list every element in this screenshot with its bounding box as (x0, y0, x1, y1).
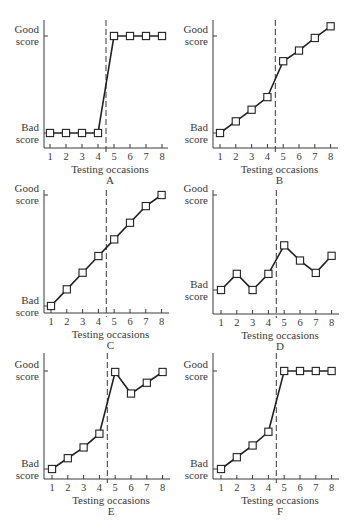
x-tick-label: 1 (218, 317, 223, 328)
bad-label: Bad (21, 457, 39, 469)
data-point-marker (249, 286, 256, 293)
x-tick-label: 3 (250, 317, 255, 328)
good-score-label: score (185, 194, 208, 206)
bad-label: Bad (190, 121, 208, 133)
data-point-marker (233, 454, 240, 461)
bad-score-label: score (16, 306, 39, 318)
x-tick-label: 5 (281, 151, 286, 162)
x-tick-label: 5 (113, 482, 118, 493)
data-point-marker (143, 379, 150, 386)
x-tick-label: 2 (234, 317, 239, 328)
data-point-marker (328, 252, 335, 259)
panel-d: GoodscoreBadscore12345678Testing occasio… (184, 182, 339, 352)
panel-f: GoodscoreBadscore12345678Testing occasio… (184, 353, 339, 517)
panel-b: GoodscoreBadscore12345678Testing occasio… (184, 20, 338, 186)
good-score-label: score (16, 35, 39, 47)
bad-score-label: score (16, 469, 39, 481)
data-point-marker (311, 34, 318, 41)
data-point-marker (64, 455, 71, 462)
good-score-label: score (185, 370, 208, 382)
good-score-label: score (16, 370, 39, 382)
x-tick-label: 8 (329, 482, 334, 493)
bad-score-label: score (185, 469, 208, 481)
x-tick-label: 7 (313, 317, 318, 328)
x-tick-label: 2 (234, 482, 239, 493)
x-tick-label: 4 (97, 482, 103, 493)
data-point-marker (111, 236, 118, 243)
data-point-marker (78, 129, 85, 136)
panel-c: GoodscoreBadscore12345678Testing occasio… (15, 182, 169, 351)
bad-label: Bad (190, 457, 208, 469)
good-label: Good (15, 358, 40, 370)
data-point-marker (110, 32, 117, 39)
bad-score-label: score (185, 133, 208, 145)
data-point-marker (46, 129, 53, 136)
data-point-marker (79, 269, 86, 276)
data-point-marker (95, 252, 102, 259)
good-label: Good (15, 182, 40, 194)
data-point-marker (327, 23, 334, 30)
good-label: Good (15, 23, 40, 35)
x-tick-label: 4 (266, 317, 272, 328)
bad-score-label: score (16, 133, 39, 145)
figure-grid: GoodscoreBadscore12345678Testing occasio… (0, 0, 362, 532)
x-tick-label: 1 (218, 482, 223, 493)
x-tick-label: 5 (282, 317, 287, 328)
data-point-marker (216, 129, 223, 136)
x-tick-label: 6 (296, 151, 301, 162)
data-point-marker (232, 118, 239, 125)
data-point-marker (62, 129, 69, 136)
data-point-marker (48, 465, 55, 472)
x-tick-label: 3 (81, 482, 86, 493)
x-tick-label: 1 (47, 151, 52, 162)
data-point-marker (328, 367, 335, 374)
good-score-label: score (185, 35, 208, 47)
x-tick-label: 3 (79, 151, 84, 162)
x-tick-label: 6 (127, 151, 132, 162)
x-tick-label: 3 (80, 316, 85, 327)
x-tick-label: 8 (160, 482, 165, 493)
x-tick-label: 4 (265, 151, 271, 162)
x-tick-label: 7 (143, 316, 148, 327)
good-score-label: score (16, 194, 39, 206)
data-point-marker (63, 286, 70, 293)
data-point-marker (126, 219, 133, 226)
good-label: Good (184, 23, 209, 35)
panel-a: GoodscoreBadscore12345678Testing occasio… (15, 20, 168, 186)
data-point-marker (217, 465, 224, 472)
x-tick-label: 4 (96, 316, 102, 327)
x-tick-label: 8 (159, 151, 164, 162)
data-point-marker (158, 191, 165, 198)
data-point-marker (112, 368, 119, 375)
data-point-marker (281, 367, 288, 374)
x-tick-label: 5 (282, 482, 287, 493)
bad-score-label: score (185, 290, 208, 302)
x-tick-label: 2 (63, 151, 68, 162)
x-tick-label: 6 (128, 482, 133, 493)
x-tick-label: 8 (328, 151, 333, 162)
x-tick-label: 2 (64, 316, 69, 327)
panel-letter: C (107, 339, 114, 351)
data-point-marker (158, 32, 165, 39)
data-point-marker (296, 257, 303, 264)
panel-letter: D (276, 340, 284, 352)
panel-letter: B (276, 174, 283, 186)
x-tick-label: 2 (233, 151, 238, 162)
panel-e: GoodscoreBadscore12345678Testing occasio… (15, 353, 170, 517)
x-tick-label: 4 (266, 482, 272, 493)
x-tick-label: 5 (112, 316, 117, 327)
x-tick-label: 4 (95, 151, 101, 162)
x-tick-label: 1 (49, 482, 54, 493)
bad-label: Bad (21, 294, 39, 306)
data-point-marker (312, 367, 319, 374)
x-tick-label: 2 (65, 482, 70, 493)
data-point-marker (249, 442, 256, 449)
data-point-marker (126, 32, 133, 39)
panel-letter: E (108, 505, 115, 517)
data-point-marker (233, 270, 240, 277)
x-tick-label: 8 (159, 316, 164, 327)
x-tick-label: 5 (111, 151, 116, 162)
x-tick-label: 7 (313, 482, 318, 493)
data-point-marker (80, 444, 87, 451)
data-point-marker (142, 32, 149, 39)
